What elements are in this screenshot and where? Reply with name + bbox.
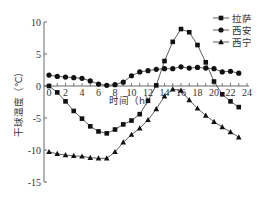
square-marker	[212, 79, 217, 84]
series-square	[47, 27, 241, 136]
square-marker	[146, 98, 151, 103]
circle-marker	[220, 69, 225, 74]
circle-marker	[129, 73, 134, 78]
circle-marker	[145, 68, 150, 73]
circle-marker	[218, 27, 223, 32]
square-marker	[154, 83, 159, 88]
square-marker	[121, 122, 126, 127]
circle-marker	[63, 74, 68, 79]
square-marker	[236, 105, 241, 110]
triangle-marker	[228, 129, 234, 134]
series-circle	[46, 64, 241, 88]
circle-marker	[195, 65, 200, 70]
square-marker	[113, 127, 118, 132]
series-line	[49, 67, 239, 86]
circle-marker	[79, 76, 84, 81]
legend-label: 西宁	[232, 37, 252, 48]
circle-marker	[170, 66, 175, 71]
square-marker	[219, 16, 224, 21]
circle-marker	[112, 82, 117, 87]
legend-item: 西宁	[213, 37, 252, 48]
legend-item: 拉萨	[213, 13, 252, 24]
y-tick-label: -5	[33, 113, 41, 124]
square-marker	[96, 129, 101, 134]
x-tick-label: 20	[209, 87, 219, 98]
triangle-marker	[203, 112, 209, 117]
square-marker	[129, 118, 134, 123]
circle-marker	[71, 75, 76, 80]
square-marker	[55, 90, 60, 95]
triangle-marker	[236, 134, 242, 139]
circle-marker	[162, 66, 167, 71]
square-marker	[179, 27, 184, 32]
circle-marker	[137, 69, 142, 74]
square-marker	[203, 60, 208, 65]
square-marker	[170, 40, 175, 45]
legend: 拉萨西安西宁	[213, 13, 252, 48]
circle-marker	[154, 67, 159, 72]
square-marker	[88, 124, 93, 129]
circle-marker	[46, 73, 51, 78]
x-tick-label: 4	[80, 87, 85, 98]
circle-marker	[104, 83, 109, 88]
y-tick-label: -10	[28, 145, 41, 156]
triangle-marker	[211, 119, 217, 124]
y-tick-label: 10	[31, 17, 41, 28]
square-marker	[195, 43, 200, 48]
y-axis-tick-labels: 1050-5-10-15	[28, 17, 41, 188]
square-marker	[220, 92, 225, 97]
circle-marker	[178, 64, 183, 69]
y-tick-label: 0	[36, 81, 41, 92]
square-marker	[228, 99, 233, 104]
x-tick-label: 2	[63, 87, 68, 98]
x-tick-label: 22	[226, 87, 236, 98]
circle-marker	[88, 78, 93, 83]
legend-item: 西安	[213, 25, 252, 36]
circle-marker	[187, 65, 192, 70]
y-axis-title: 干球温度（℃）	[13, 67, 24, 138]
x-tick-label: 0	[47, 87, 52, 98]
legend-label: 拉萨	[232, 13, 252, 24]
square-marker	[104, 131, 109, 136]
x-tick-label: 6	[96, 87, 101, 98]
circle-marker	[55, 74, 60, 79]
circle-marker	[228, 69, 233, 74]
square-marker	[162, 59, 167, 64]
y-tick-label: 5	[36, 49, 41, 60]
circle-marker	[121, 80, 126, 85]
series-line	[49, 29, 239, 133]
square-marker	[80, 116, 85, 121]
square-marker	[47, 84, 52, 89]
circle-marker	[96, 81, 101, 86]
y-tick-label: -15	[28, 177, 41, 188]
triangle-marker	[170, 86, 176, 91]
triangle-marker	[219, 124, 225, 129]
x-tick-label: 24	[242, 87, 252, 98]
square-marker	[137, 112, 142, 117]
circle-marker	[203, 65, 208, 70]
triangle-marker	[129, 132, 135, 137]
triangle-marker	[46, 149, 52, 154]
temperature-line-chart: 1050-5-10-15 024681012141618202224 时间（h）…	[0, 0, 275, 197]
legend-label: 西安	[232, 25, 252, 36]
triangle-marker	[153, 106, 159, 111]
square-marker	[71, 109, 76, 114]
x-tick-label: 18	[193, 87, 203, 98]
circle-marker	[236, 71, 241, 76]
square-marker	[187, 30, 192, 35]
square-marker	[63, 99, 68, 104]
circle-marker	[211, 66, 216, 71]
